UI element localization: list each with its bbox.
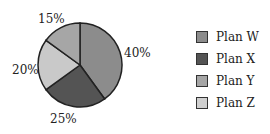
legend-item-plan-y: Plan Y [196,70,259,92]
legend-item-plan-w: Plan W [196,26,259,48]
legend-item-plan-x: Plan X [196,48,259,70]
legend-swatch-icon [196,97,208,109]
slice-label-plan-z: 15% [38,12,65,26]
slice-label-plan-y: 20% [12,63,39,77]
legend-swatch-icon [196,31,208,43]
slice-label-plan-w: 40% [124,46,151,60]
legend-label: Plan W [216,30,259,44]
legend-swatch-icon [196,75,208,87]
legend-label: Plan X [216,52,255,66]
legend-swatch-icon [196,53,208,65]
legend-label: Plan Y [216,74,255,88]
slice-label-plan-x: 25% [50,112,77,126]
chart-legend: Plan W Plan X Plan Y Plan Z [196,26,259,114]
legend-item-plan-z: Plan Z [196,92,259,114]
legend-label: Plan Z [216,96,255,110]
